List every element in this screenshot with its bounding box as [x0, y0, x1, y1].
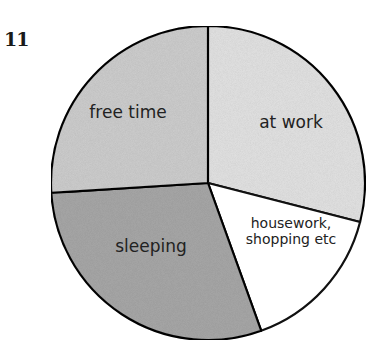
slice-label: at work — [259, 112, 323, 132]
pie-chart: at workhousework,shopping etcsleepingfre… — [0, 0, 382, 364]
slice-label: sleeping — [115, 236, 187, 256]
slice-label: free time — [89, 102, 166, 122]
slice-label: housework,shopping etc — [246, 215, 336, 247]
